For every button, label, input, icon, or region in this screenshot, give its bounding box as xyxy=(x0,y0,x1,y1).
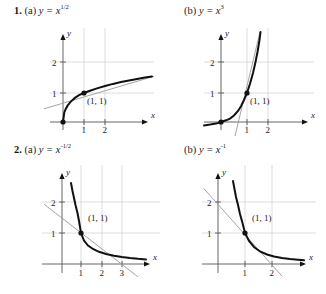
y-tick-label-1: 1 xyxy=(52,89,57,99)
y-axis-arrow-icon xyxy=(60,34,65,40)
point-label-1-1: (1, 1) xyxy=(87,96,107,106)
y-tick-label-2: 2 xyxy=(210,58,215,68)
y-tick-label-1: 1 xyxy=(207,229,212,239)
x-axis-arrow-icon xyxy=(302,119,308,124)
x-tick-label-1: 1 xyxy=(245,125,250,135)
x-tick-label-2: 2 xyxy=(103,125,108,135)
x-tick-label-2: 2 xyxy=(100,268,105,278)
graph-1b-svg: x y 1 2 1 2 (1, 1) xyxy=(180,18,320,136)
x-axis-arrow-icon xyxy=(144,261,150,266)
problem-1: 1. (a) y = x1/2 (b) y = x3 xyxy=(0,0,326,20)
tangent-line xyxy=(235,32,260,136)
graph-2b-svg: x y 1 2 1 2 (1, 1) xyxy=(180,157,325,277)
problem-1a-exponent: 1/2 xyxy=(60,3,68,10)
point-1-1 xyxy=(81,90,86,95)
x-axis-arrow-icon xyxy=(300,261,306,266)
point-1-1 xyxy=(244,90,249,95)
y-tick-label-2: 2 xyxy=(52,58,57,68)
x-axis-label: x xyxy=(152,252,157,262)
problem-1b-equation: y = x xyxy=(199,5,221,16)
x-axis-label: x xyxy=(308,252,313,262)
problem-1a-part: (a) xyxy=(25,5,37,16)
y-axis-label: y xyxy=(66,28,71,38)
problem-2b-exponent: -1 xyxy=(221,142,227,149)
y-axis-label: y xyxy=(221,167,226,177)
graph-1a-svg: x y 1 2 1 2 (1, 1) xyxy=(20,18,160,136)
problem-1-labels: 1. (a) y = x1/2 (b) y = x3 xyxy=(0,0,326,20)
y-axis-arrow-icon xyxy=(215,173,220,179)
y-tick-label-2: 2 xyxy=(207,198,212,208)
problem-2b-equation: y = x xyxy=(199,144,221,155)
point-label-1-1: (1, 1) xyxy=(250,96,270,106)
graph-2b: x y 1 2 1 2 (1, 1) xyxy=(180,157,325,277)
graph-2a-svg: x y 1 2 3 1 2 (1, 1) xyxy=(20,157,170,277)
y-tick-label-2: 2 xyxy=(51,198,56,208)
problem-1a-equation: y = x xyxy=(39,5,61,16)
y-axis-label: y xyxy=(65,167,70,177)
point-1-1 xyxy=(242,230,247,235)
origin-point xyxy=(218,119,223,124)
y-axis-arrow-icon xyxy=(59,173,64,179)
x-tick-label-2: 2 xyxy=(270,268,275,278)
problem-2a-exponent: -1/2 xyxy=(60,142,71,149)
x-tick-label-1: 1 xyxy=(82,125,87,135)
curve-x-cubed xyxy=(204,32,261,125)
problem-2a-label: 2. (a) y = x-1/2 xyxy=(14,143,71,155)
y-axis-label: y xyxy=(224,28,229,38)
x-axis-arrow-icon xyxy=(142,119,148,124)
x-tick-label-3: 3 xyxy=(120,268,125,278)
point-label-1-1: (1, 1) xyxy=(252,213,272,223)
problem-2b-label: (b) y = x-1 xyxy=(184,143,226,155)
origin-point xyxy=(60,119,65,124)
x-axis-label: x xyxy=(150,110,155,120)
x-tick-label-1: 1 xyxy=(79,268,84,278)
figure-page: 1. (a) y = x1/2 (b) y = x3 xyxy=(0,0,326,294)
x-tick-label-2: 2 xyxy=(266,125,271,135)
problem-2-labels: 2. (a) y = x-1/2 (b) y = x-1 xyxy=(0,139,326,159)
curve-x-neg-half xyxy=(71,183,146,259)
problem-1b-exponent: 3 xyxy=(221,3,224,10)
problem-2-number: 2. xyxy=(14,144,22,155)
graph-1a: x y 1 2 1 2 (1, 1) xyxy=(20,18,160,136)
point-label-1-1: (1, 1) xyxy=(88,213,108,223)
problem-1b-label: (b) y = x3 xyxy=(184,4,224,16)
problem-2a-equation: y = x xyxy=(39,144,61,155)
point-1-1 xyxy=(78,230,83,235)
graph-1b: x y 1 2 1 2 (1, 1) xyxy=(180,18,320,136)
problem-2a-part: (a) xyxy=(25,144,37,155)
problem-1b-part: (b) xyxy=(184,5,196,16)
x-tick-label-1: 1 xyxy=(243,268,248,278)
problem-1-number: 1. xyxy=(14,5,22,16)
x-axis-label: x xyxy=(310,110,315,120)
problem-2: 2. (a) y = x-1/2 (b) y = x-1 xyxy=(0,139,326,159)
y-tick-label-1: 1 xyxy=(210,89,215,99)
y-tick-label-1: 1 xyxy=(51,229,56,239)
problem-1a-label: 1. (a) y = x1/2 xyxy=(14,4,69,16)
graph-2a: x y 1 2 3 1 2 (1, 1) xyxy=(20,157,170,277)
problem-2b-part: (b) xyxy=(184,144,196,155)
y-axis-arrow-icon xyxy=(218,34,223,40)
